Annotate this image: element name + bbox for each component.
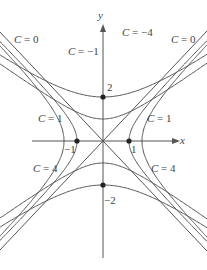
level-label: C = 0 [14,34,39,45]
level-label: C = 1 [147,113,172,124]
level-label: C = 1 [38,113,63,124]
tick-y-neg2: −2 [104,195,116,206]
tick-y-2: 2 [107,82,113,93]
level-label: C = 0 [171,34,196,45]
marked-point [100,182,105,187]
level-curve-c4-right [142,29,207,258]
marked-point [100,94,105,99]
tick-x-neg1: −1 [64,144,76,155]
x-axis-arrow-icon [172,138,180,144]
level-curve-c1-right [129,29,207,258]
y-axis-label: y [98,10,103,21]
level-label: C = 4 [151,163,176,174]
level-label: C = 4 [33,163,58,174]
level-label: C = −4 [122,27,153,38]
tick-x-1: 1 [131,144,137,155]
x-axis-label: x [180,135,185,146]
level-curve-c4-left [0,29,64,258]
y-axis-arrow-icon [100,24,106,32]
level-label: C = −1 [68,46,99,57]
level-curves-diagram: y x 2 −2 1 −1 C = 0C = −4C = 0C = −1C = … [0,0,207,270]
